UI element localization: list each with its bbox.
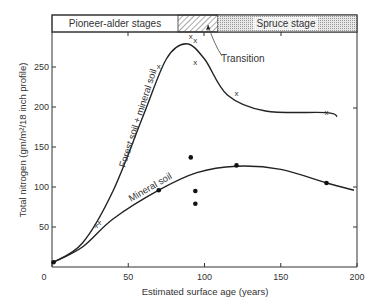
forest-soil-point: x (189, 32, 193, 41)
forest-soil-point: x (235, 89, 239, 98)
y-tick-label: 200 (34, 102, 49, 112)
mineral-soil-point (51, 260, 56, 265)
nitrogen-chart: Pioneer-alder stages Spruce stage 501001… (0, 0, 375, 305)
x-tick-label: 200 (349, 272, 364, 282)
stage-band: Pioneer-alder stages Spruce stage (52, 15, 357, 32)
mineral-curve-label: Mineral soil (127, 170, 174, 204)
transition-hatch (178, 15, 218, 32)
x-tick-label: 0 (41, 272, 46, 282)
forest-curve-label: Forest soil + mineral soil (116, 68, 158, 169)
forest-soil-point: x (325, 108, 329, 117)
forest-soil-point: x (193, 36, 197, 45)
mineral-soil-point (324, 181, 329, 186)
axes: 50100150200250 050100150200 (34, 32, 365, 282)
forest-soil-point: x (157, 62, 161, 71)
transition-label: Transition (221, 53, 265, 64)
mineral-soil-point (193, 202, 198, 207)
mineral-soil-point (193, 189, 198, 194)
stage-spruce-label: Spruce stage (257, 18, 316, 29)
y-tick-label: 250 (34, 62, 49, 72)
x-tick-label: 150 (273, 272, 288, 282)
mineral-soil-point (188, 155, 193, 160)
x-axis-label: Estimated surface age (years) (142, 286, 269, 297)
forest-soil-point: x (193, 58, 197, 67)
y-axis-label: Total nitrogen (gm/m²/18 inch profile) (17, 63, 28, 218)
series-line (54, 166, 354, 262)
x-tick-label: 100 (197, 272, 212, 282)
stage-pioneer-label: Pioneer-alder stages (69, 18, 161, 29)
y-tick-label: 50 (39, 222, 49, 232)
mineral-soil-point (234, 163, 239, 168)
forest-soil-point: x (97, 218, 101, 227)
y-tick-label: 150 (34, 142, 49, 152)
y-tick-label: 100 (34, 182, 49, 192)
x-tick-label: 50 (123, 272, 133, 282)
curves (54, 44, 354, 262)
